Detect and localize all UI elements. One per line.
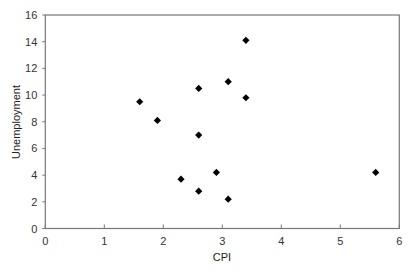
x-axis-ticks: 0123456 bbox=[42, 225, 402, 247]
x-tick-label: 4 bbox=[278, 235, 284, 247]
y-tick-label: 2 bbox=[31, 196, 37, 208]
diamond-marker-icon bbox=[154, 117, 161, 124]
y-tick-label: 6 bbox=[31, 142, 37, 154]
diamond-marker-icon bbox=[372, 169, 379, 176]
y-axis-ticks: 0246810121416 bbox=[25, 9, 45, 235]
y-tick-label: 16 bbox=[25, 9, 37, 21]
diamond-marker-icon bbox=[242, 37, 249, 44]
diamond-marker-icon bbox=[195, 188, 202, 195]
y-tick-label: 14 bbox=[25, 36, 37, 48]
y-tick-label: 4 bbox=[31, 169, 37, 181]
x-axis-label: CPI bbox=[213, 251, 231, 263]
x-tick-label: 0 bbox=[42, 235, 48, 247]
x-tick-label: 2 bbox=[160, 235, 166, 247]
plot-frame bbox=[45, 15, 399, 229]
diamond-marker-icon bbox=[136, 98, 143, 105]
x-tick-label: 5 bbox=[337, 235, 343, 247]
y-axis-label: Unemployment bbox=[10, 85, 22, 159]
y-tick-label: 0 bbox=[31, 223, 37, 235]
diamond-marker-icon bbox=[225, 78, 232, 85]
diamond-marker-icon bbox=[195, 85, 202, 92]
y-tick-label: 12 bbox=[25, 62, 37, 74]
x-tick-label: 3 bbox=[219, 235, 225, 247]
x-tick-label: 1 bbox=[101, 235, 107, 247]
diamond-marker-icon bbox=[177, 176, 184, 183]
diamond-marker-icon bbox=[242, 94, 249, 101]
scatter-chart: 0246810121416 0123456 CPI Unemployment bbox=[0, 0, 415, 276]
plot-border bbox=[45, 15, 399, 229]
x-tick-label: 6 bbox=[396, 235, 402, 247]
diamond-marker-icon bbox=[195, 131, 202, 138]
y-tick-label: 8 bbox=[31, 116, 37, 128]
data-points bbox=[136, 37, 379, 203]
diamond-marker-icon bbox=[225, 196, 232, 203]
diamond-marker-icon bbox=[213, 169, 220, 176]
y-tick-label: 10 bbox=[25, 89, 37, 101]
